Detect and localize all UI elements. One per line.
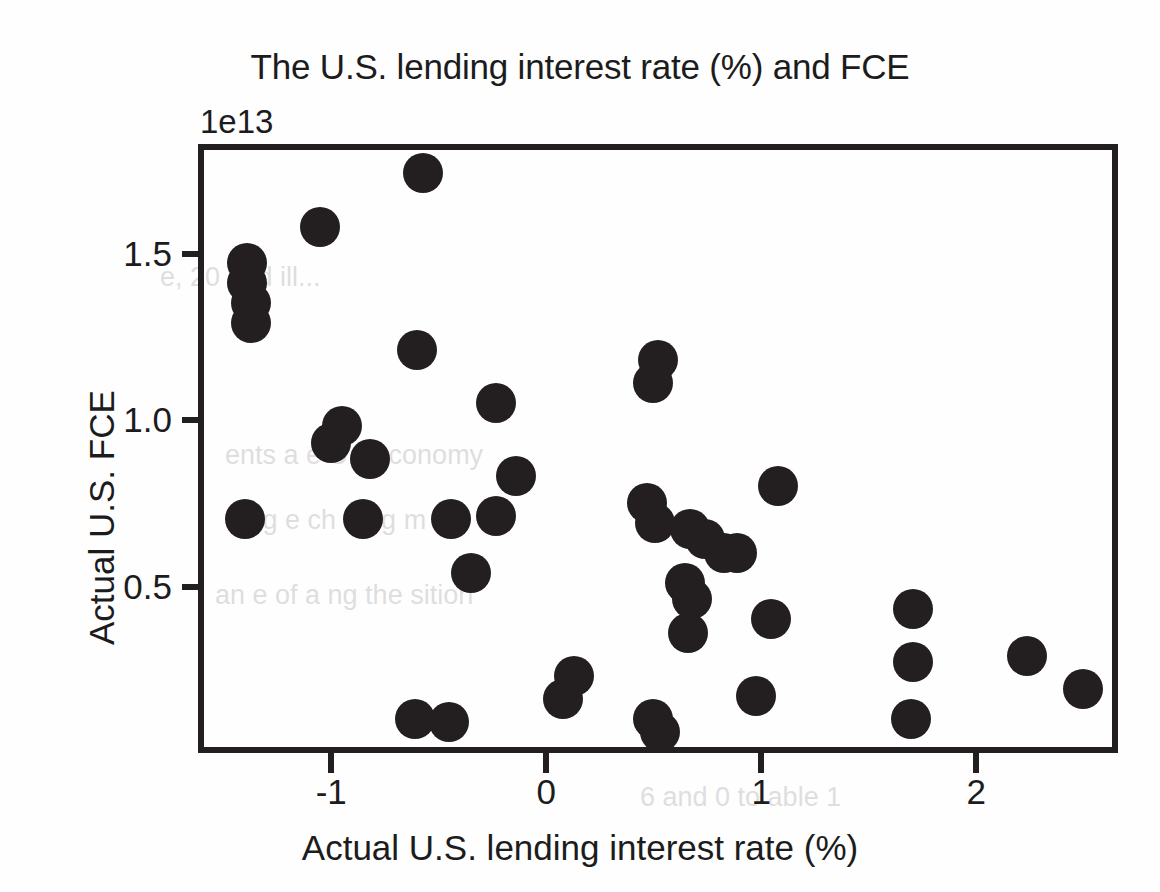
scatter-plot-area [204, 150, 1112, 747]
data-point [1063, 669, 1103, 709]
data-point [451, 553, 491, 593]
y-axis-offset-label: 1e13 [200, 103, 273, 141]
x-tick-mark [758, 753, 764, 773]
data-point [403, 153, 443, 193]
x-tick-label: 1 [701, 772, 821, 812]
data-point [476, 496, 516, 536]
data-point [543, 679, 583, 719]
x-tick-label: 0 [486, 772, 606, 812]
data-point [633, 363, 673, 403]
y-tick-label: 1.0 [12, 400, 172, 440]
data-point [758, 466, 798, 506]
chart-figure: e, 20 and ill... ents a e U.S. conomy d … [0, 0, 1160, 892]
data-point [736, 676, 776, 716]
x-tick-label: -1 [271, 772, 391, 812]
data-point [225, 499, 265, 539]
data-point [231, 303, 271, 343]
data-point [668, 613, 708, 653]
data-point [397, 330, 437, 370]
data-point [429, 702, 469, 742]
data-point [640, 712, 680, 752]
data-point [496, 456, 536, 496]
data-point [893, 589, 933, 629]
y-tick-label: 1.5 [12, 234, 172, 274]
x-tick-label: 2 [916, 772, 1036, 812]
data-point [891, 699, 931, 739]
data-point [311, 423, 351, 463]
y-tick-mark [182, 584, 198, 590]
y-tick-mark [182, 417, 198, 423]
data-point [343, 499, 383, 539]
data-point [751, 599, 791, 639]
data-point [300, 207, 340, 247]
data-point [431, 499, 471, 539]
y-tick-mark [182, 251, 198, 257]
data-point [1007, 636, 1047, 676]
data-point [635, 503, 675, 543]
y-tick-label: 0.5 [12, 567, 172, 607]
chart-title: The U.S. lending interest rate (%) and F… [0, 47, 1160, 87]
data-point [350, 439, 390, 479]
x-axis-title: Actual U.S. lending interest rate (%) [0, 828, 1160, 868]
x-tick-mark [328, 753, 334, 773]
data-point [893, 642, 933, 682]
y-axis-title: Actual U.S. FCE [82, 85, 122, 645]
x-tick-mark [543, 753, 549, 773]
data-point [476, 383, 516, 423]
plot-frame [198, 144, 1118, 753]
x-tick-mark [973, 753, 979, 773]
data-point [704, 533, 744, 573]
